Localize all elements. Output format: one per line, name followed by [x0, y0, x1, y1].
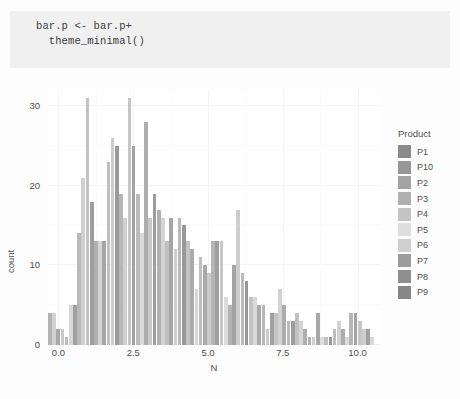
legend: Product P1P10P2P3P4P5P6P7P8P9: [398, 128, 458, 300]
histogram-bar: [358, 321, 362, 345]
histogram-bar: [299, 321, 303, 345]
histogram-bar: [132, 146, 136, 345]
histogram-bar: [48, 313, 52, 345]
histogram-bar: [324, 337, 328, 345]
x-axis-label: N: [48, 362, 380, 373]
histogram-bar: [295, 313, 299, 345]
histogram-bar: [195, 289, 199, 345]
histogram-bars: [48, 90, 380, 345]
legend-item-label: P4: [417, 209, 428, 219]
histogram-bar: [316, 313, 320, 345]
histogram-bar: [370, 337, 374, 345]
legend-item: P9: [398, 284, 458, 300]
legend-item-label: P2: [417, 178, 428, 188]
legend-item-label: P7: [417, 256, 428, 266]
x-axis-ticks: 0.02.55.07.510.0: [48, 347, 380, 361]
histogram-bar: [56, 329, 60, 345]
histogram-bar: [249, 297, 253, 345]
y-axis-tick-label: 0: [14, 339, 40, 350]
legend-color-swatch: [398, 192, 411, 205]
legend-item-label: P5: [417, 225, 428, 235]
histogram-bar: [94, 241, 98, 345]
histogram-bar: [136, 194, 140, 345]
code-line-2: theme_minimal(): [10, 34, 450, 49]
histogram-bar: [148, 218, 152, 346]
plot-panel: [48, 90, 380, 345]
histogram-bar: [308, 337, 312, 345]
y-axis-tick-label: 30: [14, 100, 40, 111]
x-axis-tick-label: 2.5: [127, 347, 140, 358]
histogram-bar: [111, 138, 115, 345]
legend-item: P7: [398, 253, 458, 269]
histogram-bar: [73, 305, 77, 345]
legend-item: P4: [398, 206, 458, 222]
histogram-bar: [262, 305, 266, 345]
histogram-bar: [128, 98, 132, 345]
histogram-bar: [228, 305, 232, 345]
histogram-bar: [215, 241, 219, 345]
histogram-bar: [186, 241, 190, 345]
histogram-bar: [257, 305, 261, 345]
legend-item: P5: [398, 222, 458, 238]
histogram-bar: [98, 241, 102, 345]
y-axis-ticks: 0102030: [14, 78, 40, 388]
histogram-bar: [182, 225, 186, 345]
histogram-bar: [157, 210, 161, 345]
histogram-bar: [174, 249, 178, 345]
histogram-bar: [236, 210, 240, 345]
histogram-bar: [102, 241, 106, 345]
code-line-1: bar.p <- bar.p+: [10, 19, 450, 34]
histogram-bar: [65, 337, 69, 345]
histogram-bar: [86, 98, 90, 345]
histogram-bar: [366, 329, 370, 345]
histogram-bar: [123, 218, 127, 346]
histogram-bar: [362, 329, 366, 345]
legend-color-swatch: [398, 176, 411, 189]
y-axis-tick-label: 20: [14, 180, 40, 191]
legend-item: P1: [398, 144, 458, 160]
x-axis-tick-label: 7.5: [276, 347, 289, 358]
histogram-bar: [190, 249, 194, 345]
legend-color-swatch: [398, 223, 411, 236]
histogram-bar: [291, 321, 295, 345]
notebook-output-page: bar.p <- bar.p+ theme_minimal() count 01…: [0, 0, 460, 399]
histogram-bar: [169, 218, 173, 346]
legend-item: P2: [398, 175, 458, 191]
legend-title: Product: [398, 128, 458, 139]
histogram-bar: [52, 313, 56, 345]
legend-item-label: P1: [417, 147, 428, 157]
legend-item-label: P9: [417, 287, 428, 297]
code-chunk[interactable]: bar.p <- bar.p+ theme_minimal(): [10, 11, 450, 68]
histogram-bar: [287, 321, 291, 345]
histogram-bar: [349, 313, 353, 345]
histogram-bar: [77, 233, 81, 345]
histogram-bar: [203, 265, 207, 345]
histogram-bar: [144, 122, 148, 345]
legend-item: P3: [398, 191, 458, 207]
histogram-bar: [61, 329, 65, 345]
legend-items: P1P10P2P3P4P5P6P7P8P9: [398, 144, 458, 300]
histogram-bar: [81, 178, 85, 345]
histogram-bar: [354, 313, 358, 345]
legend-color-swatch: [398, 145, 411, 158]
histogram-bar: [312, 337, 316, 345]
histogram-bar: [69, 305, 73, 345]
histogram-bar: [119, 194, 123, 345]
histogram-bar: [341, 329, 345, 345]
histogram-bar: [115, 146, 119, 345]
histogram-bar: [253, 297, 257, 345]
histogram-bar: [199, 257, 203, 345]
histogram-bar: [278, 289, 282, 345]
histogram-bar: [220, 241, 224, 345]
legend-color-swatch: [398, 161, 411, 174]
histogram-bar: [245, 281, 249, 345]
histogram-bar: [337, 321, 341, 345]
histogram-bar: [232, 265, 236, 345]
x-axis-tick-label: 5.0: [201, 347, 214, 358]
histogram-bar: [140, 233, 144, 345]
histogram-bar: [90, 202, 94, 345]
histogram-bar: [303, 329, 307, 345]
histogram-bar: [224, 297, 228, 345]
histogram-bar: [274, 313, 278, 345]
histogram-bar: [107, 162, 111, 345]
